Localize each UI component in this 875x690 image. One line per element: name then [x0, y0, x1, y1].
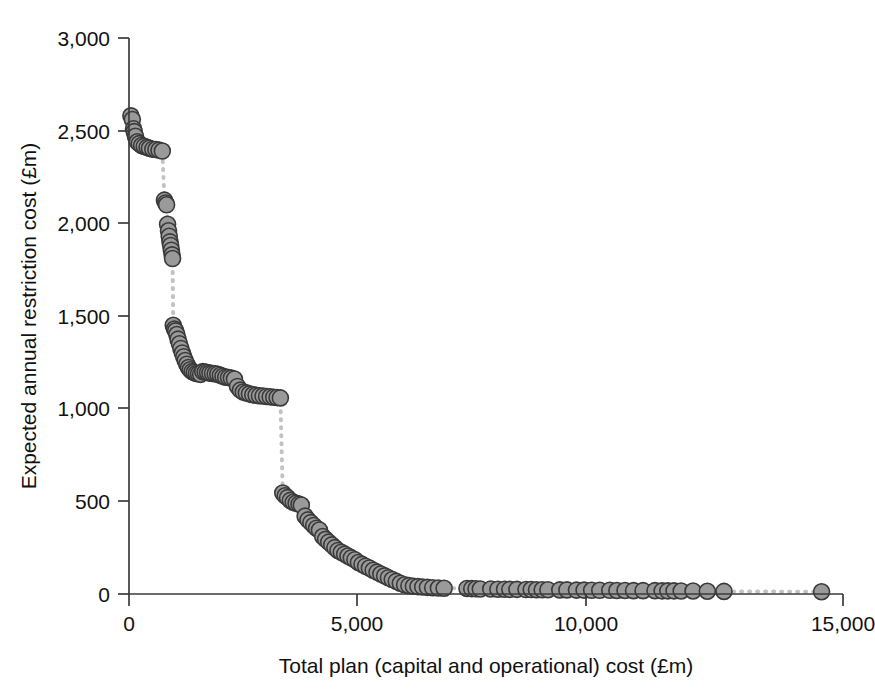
x-tick-label-10000: 10,000 — [554, 612, 618, 635]
y-tick-label-2500: 2,500 — [57, 120, 110, 143]
y-tick-label-1500: 1,500 — [57, 305, 110, 328]
x-tick-label-0: 0 — [123, 612, 135, 635]
x-axis-title: Total plan (capital and operational) cos… — [279, 654, 693, 677]
y-axis-title: Expected annual restriction cost (£m) — [17, 143, 40, 490]
y-tick-label-500: 500 — [75, 490, 110, 513]
x-tick-label-5000: 5,000 — [331, 612, 384, 635]
data-point — [154, 143, 170, 159]
y-tick-label-0: 0 — [98, 583, 110, 606]
data-point — [699, 583, 715, 599]
data-point — [165, 251, 181, 267]
data-point — [159, 197, 175, 213]
scatter-plot-svg: 3,000 2,500 2,000 1,500 1,000 500 0 0 5,… — [0, 0, 875, 690]
data-point — [814, 584, 830, 600]
data-point — [272, 390, 288, 406]
y-tick-label-3000: 3,000 — [57, 27, 110, 50]
chart-figure: 3,000 2,500 2,000 1,500 1,000 500 0 0 5,… — [0, 0, 875, 690]
y-tick-label-1000: 1,000 — [57, 397, 110, 420]
x-tick-label-15000: 15,000 — [811, 612, 875, 635]
data-point — [716, 583, 732, 599]
y-tick-label-2000: 2,000 — [57, 212, 110, 235]
